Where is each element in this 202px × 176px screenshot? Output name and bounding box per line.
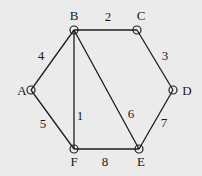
edge-weight-label: 6 [128,106,135,121]
edge-weight-label: 3 [162,48,169,63]
node-label-e: E [137,154,145,169]
graph-diagram: 12345678 ABCDEF [0,0,202,176]
edge-weight-label: 1 [77,108,84,123]
edge-weight-label: 8 [102,154,109,169]
node-label-c: C [137,8,146,23]
edge-weight-label: 5 [40,116,47,131]
node-label-a: A [17,83,27,98]
edge-A-F [31,90,74,149]
node-label-b: B [70,8,79,23]
edge-B-E [74,30,139,149]
node-label-f: F [70,154,77,169]
nodes-group [27,26,177,153]
edge-weight-label: 7 [161,115,168,130]
edge-labels-group: 12345678 [38,9,169,169]
edge-D-E [139,90,173,149]
node-labels-group: ABCDEF [17,8,191,169]
edges-group [31,30,173,149]
edge-weight-label: 2 [105,9,112,24]
edge-weight-label: 4 [38,48,45,63]
node-label-d: D [182,83,191,98]
